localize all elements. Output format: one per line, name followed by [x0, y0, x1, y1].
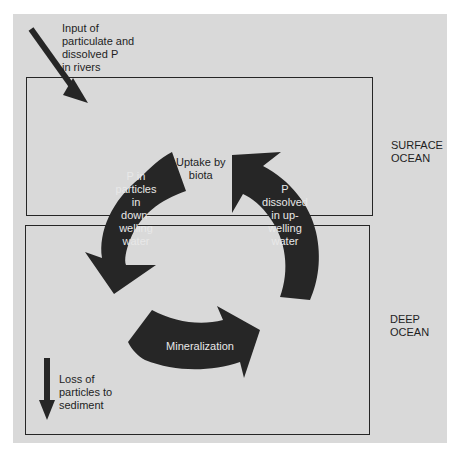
mineralization-label: Mineralization — [150, 340, 250, 353]
deep-ocean-label: DEEP OCEAN — [390, 313, 429, 339]
upwelling-label: P dissolved in up- welling water — [250, 183, 320, 248]
sediment-loss-arrow-icon — [39, 358, 55, 420]
downwelling-label: P in particles in down- welling water — [100, 170, 172, 248]
river-input-label: Input of particulate and dissolved P in … — [62, 22, 134, 74]
sediment-loss-label: Loss of particles to sediment — [59, 373, 112, 412]
surface-ocean-label: SURFACE OCEAN — [391, 139, 443, 165]
uptake-label: Uptake by biota — [176, 156, 226, 182]
